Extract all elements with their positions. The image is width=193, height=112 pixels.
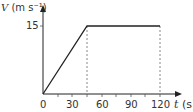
- x-axis-symbol: t: [174, 98, 178, 111]
- x-tick-label-60: 60: [96, 100, 109, 110]
- y-axis-symbol: V: [1, 2, 8, 13]
- x-tick-label-90: 90: [125, 100, 138, 110]
- x-tick-label-0: 0: [40, 100, 46, 110]
- y-tick-label-15: 15: [26, 21, 39, 31]
- x-axis-label: t (s): [174, 99, 193, 110]
- x-axis-arrow-icon: [175, 91, 182, 97]
- x-tick-label-120: 120: [151, 100, 170, 110]
- velocity-series-line: [43, 26, 160, 94]
- y-axis-unit: (m s⁻¹): [11, 2, 46, 13]
- velocity-time-chart: [0, 0, 193, 112]
- y-axis-label: V (m s⁻¹): [1, 3, 47, 13]
- x-axis-unit: (s): [182, 98, 193, 111]
- x-tick-label-30: 30: [66, 100, 79, 110]
